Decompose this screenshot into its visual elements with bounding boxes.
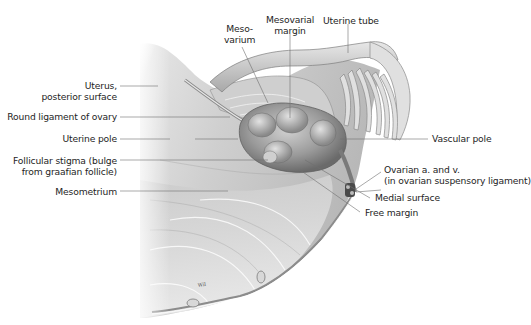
follicle bbox=[310, 120, 336, 146]
label-uterine-pole: Uterine pole bbox=[62, 133, 117, 144]
label-free-margin: Free margin bbox=[365, 207, 418, 218]
label-round-ligament: Round ligament of ovary bbox=[7, 111, 117, 122]
follicle bbox=[248, 113, 276, 137]
follicle bbox=[276, 107, 308, 133]
label-mesovarium: Meso- varium bbox=[224, 23, 255, 45]
vessel-bulge bbox=[187, 299, 199, 307]
label-uterine-tube: Uterine tube bbox=[323, 15, 379, 26]
label-medial-surface: Medial surface bbox=[375, 192, 440, 203]
ovarian-vessels-icon bbox=[345, 183, 355, 197]
label-ovarian-vessels: Ovarian a. and v. (in ovarian suspensory… bbox=[384, 164, 531, 186]
label-follicular-stigma: Follicular stigma (bulge from graafian f… bbox=[13, 155, 117, 177]
label-mesovarial-margin: Mesovarial margin bbox=[266, 14, 314, 36]
follicular-stigma bbox=[263, 151, 277, 163]
label-mesometrium: Mesometrium bbox=[55, 186, 117, 197]
vessel-bulge bbox=[257, 271, 265, 283]
svg-text:Wil: Wil bbox=[197, 281, 206, 288]
label-uterus-posterior-surface: Uterus, posterior surface bbox=[41, 80, 117, 102]
label-vascular-pole: Vascular pole bbox=[432, 133, 491, 144]
